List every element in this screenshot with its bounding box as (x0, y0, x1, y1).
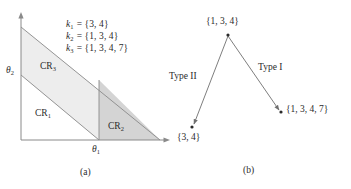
node-label-left: {3, 4} (177, 133, 200, 143)
region-label-cr2: CR2 (108, 122, 124, 132)
axis-x-arrowhead (164, 137, 171, 142)
node-dot-apex (226, 33, 229, 36)
panel-b-transition-graph: {1, 3, 4} {3, 4} {1, 3, 4, 7} Type II Ty… (175, 0, 351, 189)
axis-label-theta1: θ1 (92, 145, 100, 155)
edge-label-type-i: Type I (258, 63, 282, 73)
node-label-right: {1, 3, 4, 7} (286, 105, 328, 115)
axis-label-theta2: θ2 (6, 66, 14, 76)
legend-line-k3: k3= {1, 3, 4, 7} (66, 44, 128, 54)
edge-label-type-ii: Type II (169, 72, 197, 82)
legend-line-k2: k2= {1, 3, 4} (66, 32, 118, 42)
legend-k2-eq: = {1, 3, 4} (77, 31, 119, 41)
node-label-apex: {1, 3, 4} (206, 17, 239, 27)
figure-container: k1= {3, 4} k2= {1, 3, 4} k3= {1, 3, 4, 7… (0, 0, 351, 189)
legend-k2-sub: 2 (70, 35, 73, 42)
axis-y-arrowhead (18, 12, 23, 19)
legend-k3-sub: 3 (70, 47, 73, 54)
legend-k1-eq: = {3, 4} (77, 19, 109, 29)
region-label-cr3: CR3 (40, 62, 56, 72)
legend-line-k1: k1= {3, 4} (66, 20, 109, 30)
panel-b-graphics (175, 0, 351, 189)
region-label-cr1: CR1 (35, 109, 51, 119)
edge-type-ii-line (194, 36, 228, 124)
edge-type-i-line (228, 36, 279, 110)
caption-panel-b: (b) (243, 166, 254, 176)
legend-k3-eq: = {1, 3, 4, 7} (77, 43, 129, 53)
node-dot-left (190, 125, 193, 128)
node-dot-right (279, 110, 282, 113)
legend-k1-sub: 1 (70, 23, 73, 30)
panel-a-region-plot: k1= {3, 4} k2= {1, 3, 4} k3= {1, 3, 4, 7… (0, 0, 175, 189)
caption-panel-a: (a) (80, 168, 91, 178)
